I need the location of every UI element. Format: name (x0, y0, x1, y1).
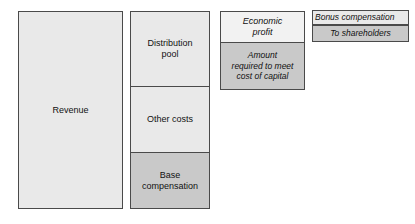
block-base-compensation-label: Base compensation (140, 170, 200, 192)
block-to-shareholders[interactable]: To shareholders (312, 25, 409, 42)
block-revenue-label: Revenue (50, 105, 90, 116)
block-base-compensation[interactable]: Base compensation (130, 152, 210, 209)
block-distribution-pool-label: Distribution pool (145, 38, 194, 60)
block-cost-of-capital[interactable]: Amount required to meet cost of capital (220, 42, 305, 90)
block-distribution-pool[interactable]: Distribution pool (130, 11, 210, 87)
block-cost-of-capital-label: Amount required to meet cost of capital (230, 50, 296, 81)
block-to-shareholders-label: To shareholders (328, 28, 393, 38)
block-economic-profit-label: Economic profit (241, 16, 285, 38)
block-economic-profit[interactable]: Economic profit (220, 11, 305, 43)
block-revenue[interactable]: Revenue (18, 11, 123, 209)
block-bonus-compensation-label: Bonus compensation (313, 12, 396, 22)
block-other-costs[interactable]: Other costs (130, 86, 210, 153)
block-bonus-compensation[interactable]: Bonus compensation (312, 10, 409, 25)
diagram-canvas: Revenue Distribution pool Other costs Ba… (0, 0, 415, 224)
block-other-costs-label: Other costs (145, 114, 195, 125)
